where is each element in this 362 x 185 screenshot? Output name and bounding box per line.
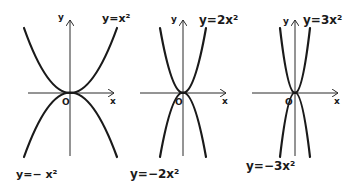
panel-coefficient-1: y x O y=x² y=− x² (16, 12, 130, 181)
bottom-curve-label: y=− x² (16, 168, 58, 181)
y-axis-label: y (171, 14, 177, 24)
origin-label: O (175, 97, 183, 107)
top-curve-label: y=x² (102, 12, 130, 25)
origin-label: O (285, 97, 293, 107)
y-axis-label: y (58, 12, 64, 22)
parabola-diagram: y x O y=x² y=− x² y x O y=2x² y=−2x² y x… (0, 0, 362, 185)
x-axis-label: x (110, 96, 116, 106)
origin-label: O (62, 97, 70, 107)
panel-coefficient-3: y x O y=3x² y=−3x² (246, 13, 342, 173)
x-axis-label: x (222, 96, 228, 106)
top-curve-label: y=3x² (303, 13, 342, 27)
top-curve-label: y=2x² (199, 13, 238, 27)
y-axis-label: y (283, 16, 289, 26)
bottom-curve-label: y=−3x² (246, 159, 295, 173)
x-axis-label: x (334, 96, 340, 106)
bottom-curve-label: y=−2x² (130, 167, 179, 181)
panel-coefficient-2: y x O y=2x² y=−2x² (130, 13, 238, 181)
